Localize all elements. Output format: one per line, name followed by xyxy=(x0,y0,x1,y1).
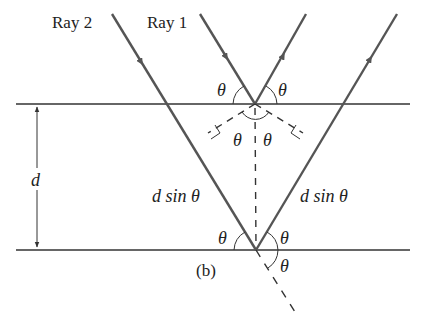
angle-arc-top-right xyxy=(266,86,277,104)
theta-bottom-lower: θ xyxy=(280,256,289,276)
theta-bottom-right: θ xyxy=(280,228,289,248)
ray-2-reflected xyxy=(256,14,397,250)
theta-bottom-left: θ xyxy=(218,228,227,248)
angle-arc-bottom-left xyxy=(234,232,245,250)
ray-2-label: Ray 2 xyxy=(52,13,92,32)
spacing-label: d xyxy=(31,170,41,190)
theta-top-right: θ xyxy=(278,80,287,100)
angle-arc-bottom-right xyxy=(267,232,278,250)
angle-arc-bottom-lower xyxy=(268,250,278,268)
theta-top-inner-right: θ xyxy=(263,130,272,150)
path-difference-left-label: d sin θ xyxy=(152,186,200,206)
perpendicular-left-dashed xyxy=(208,104,255,133)
angle-arc-top-left xyxy=(233,86,244,104)
ray-1-incident xyxy=(200,14,255,104)
theta-top-left: θ xyxy=(217,80,226,100)
theta-top-inner-left: θ xyxy=(233,130,242,150)
figure-caption: (b) xyxy=(196,261,216,280)
ray-1-label: Ray 1 xyxy=(147,13,187,32)
path-difference-right-label: d sin θ xyxy=(300,186,348,206)
bragg-diffraction-diagram: d Ray 2 Ray 1 θ θ θ θ d sin θ d sin θ θ … xyxy=(0,0,421,320)
vertical-normal-dashed xyxy=(255,108,256,248)
